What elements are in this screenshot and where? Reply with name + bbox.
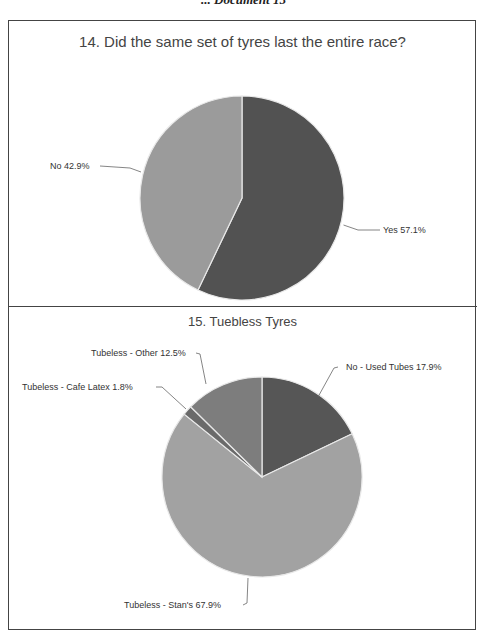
label-no-used-tubes: No - Used Tubes 17.9% (346, 362, 442, 372)
label-no: No 42.9% (50, 161, 90, 171)
label-tubeless-other: Tubeless - Other 12.5% (91, 348, 186, 358)
leader-line-other (196, 353, 206, 384)
label-tubeless-stans: Tubeless - Stan's 67.9% (124, 600, 221, 610)
leader-line-no-used-tubes (318, 367, 338, 397)
leader-line-yes (344, 225, 381, 230)
label-tubeless-cafe-latex: Tubeless - Cafe Latex 1.8% (22, 382, 133, 392)
leader-line-stans (243, 578, 248, 605)
leader-line-no (100, 166, 141, 172)
chart-1-pie (100, 96, 380, 300)
leader-line-cafe-latex (156, 387, 186, 409)
chart-2-pie (156, 353, 362, 605)
label-yes: Yes 57.1% (383, 225, 426, 235)
